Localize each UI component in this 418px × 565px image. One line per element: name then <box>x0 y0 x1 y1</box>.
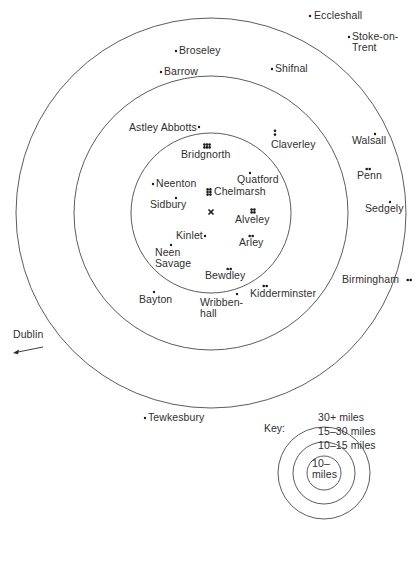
tewkesbury-marker-icon <box>144 417 146 419</box>
place-label-wribbenhall: Wribben- hall <box>200 297 243 319</box>
place-label-quatford: Quatford <box>237 174 279 185</box>
kinlet-marker-icon <box>204 235 206 237</box>
place-label-dublin: Dublin <box>13 329 43 340</box>
place-label-neen-savage: Neen Savage <box>155 247 191 269</box>
place-label-sedgely: Sedgely <box>365 203 404 214</box>
place-label-arley: Arley <box>239 237 263 248</box>
place-label-stoke-on-trent: Stoke-on- Trent <box>352 31 398 53</box>
place-label-bayton: Bayton <box>139 294 172 305</box>
place-label-astley-abbotts: Astley Abbotts <box>129 122 197 133</box>
place-label-shifnal: Shifnal <box>275 63 308 74</box>
place-label-claverley: Claverley <box>271 139 316 150</box>
place-label-kidderminster: Kidderminster <box>250 288 316 299</box>
key-label-1: 15–30 miles <box>318 426 376 437</box>
cross-icon <box>209 210 214 215</box>
place-label-birmingham: Birmingham <box>342 274 399 285</box>
eccleshall-marker-icon <box>309 15 311 17</box>
place-label-walsall: Walsall <box>352 135 386 146</box>
astley-abbotts-marker-icon <box>198 126 200 128</box>
dublin-arrow-icon <box>13 347 43 354</box>
place-label-broseley: Broseley <box>179 45 221 56</box>
neenton-marker-icon <box>152 183 154 185</box>
place-label-penn: Penn <box>357 170 382 181</box>
claverley-marker-icon <box>274 129 277 136</box>
place-label-sidbury: Sidbury <box>150 199 186 210</box>
place-label-bewdley: Bewdley <box>205 270 245 281</box>
origin-marker-icon <box>209 210 214 215</box>
key-label-0: 30+ miles <box>318 412 364 423</box>
key-label-inner: 10– miles <box>312 458 337 480</box>
place-label-barrow: Barrow <box>164 66 198 77</box>
shifnal-marker-icon <box>271 68 273 70</box>
place-label-eccleshall: Eccleshall <box>314 10 362 21</box>
key-label-2: 10–15 miles <box>318 440 376 451</box>
offmap-arrows <box>13 347 43 354</box>
place-label-tewkesbury: Tewkesbury <box>148 412 204 423</box>
key-title: Key: <box>264 422 285 434</box>
barrow-marker-icon <box>160 71 162 73</box>
wribbenhall-marker-icon <box>236 293 238 295</box>
place-label-kinlet: Kinlet <box>176 230 203 241</box>
place-label-chelmarsh: Chelmarsh <box>214 186 266 197</box>
birmingham-marker-icon <box>406 279 412 282</box>
place-label-bridgnorth: Bridgnorth <box>181 149 230 160</box>
place-label-alveley: Alveley <box>235 214 270 225</box>
chelmarsh-marker-icon <box>206 188 211 196</box>
stoke-on-trent-marker-icon <box>348 36 350 38</box>
place-label-neenton: Neenton <box>156 178 196 189</box>
broseley-marker-icon <box>175 50 177 52</box>
